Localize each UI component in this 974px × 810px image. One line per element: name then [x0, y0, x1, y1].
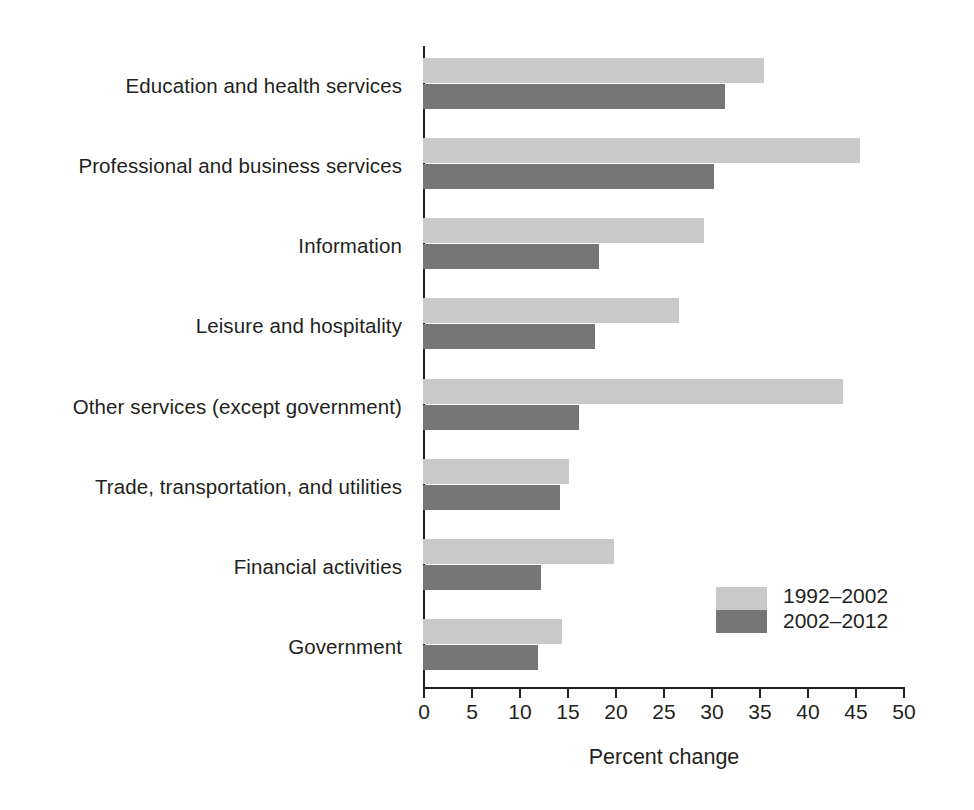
x-tick-label: 20 [604, 700, 627, 724]
category-label: Information [298, 234, 402, 258]
x-tick-label: 50 [892, 700, 915, 724]
bar-series-b [423, 84, 725, 109]
x-tick-label: 10 [508, 700, 531, 724]
x-tick [711, 687, 713, 698]
bar-series-a [423, 58, 764, 83]
x-tick-label: 30 [700, 700, 723, 724]
category-label: Financial activities [234, 555, 402, 579]
category-row: Education and health services [423, 46, 903, 126]
x-tick [567, 687, 569, 698]
bar-series-b [423, 405, 579, 430]
legend-label: 2002–2012 [783, 608, 888, 633]
x-tick [615, 687, 617, 698]
x-tick [855, 687, 857, 698]
x-tick [759, 687, 761, 698]
legend-swatches [716, 587, 767, 633]
percent-change-bar-chart: Education and health servicesProfessiona… [0, 0, 974, 810]
bar-series-a [423, 298, 679, 323]
category-row: Leisure and hospitality [423, 286, 903, 366]
category-label: Government [288, 635, 402, 659]
legend-labels: 1992–20022002–2012 [783, 583, 888, 633]
bar-series-a [423, 138, 860, 163]
category-label: Education and health services [126, 74, 402, 98]
bar-series-a [423, 459, 569, 484]
category-row: Trade, transportation, and utilities [423, 447, 903, 527]
x-tick [663, 687, 665, 698]
bar-series-b [423, 645, 538, 670]
category-label: Other services (except government) [73, 395, 402, 419]
bar-series-b [423, 164, 714, 189]
x-tick-label: 40 [796, 700, 819, 724]
x-tick-label: 25 [652, 700, 675, 724]
bar-series-a [423, 619, 562, 644]
x-tick-label: 15 [556, 700, 579, 724]
category-label: Leisure and hospitality [196, 314, 402, 338]
x-tick [807, 687, 809, 698]
x-axis-title: Percent change [423, 745, 905, 770]
legend-swatch-series-b [716, 610, 767, 633]
category-label: Professional and business services [78, 154, 402, 178]
bar-series-b [423, 324, 595, 349]
category-row: Other services (except government) [423, 367, 903, 447]
bar-series-a [423, 539, 614, 564]
bar-series-b [423, 485, 560, 510]
x-tick-label: 45 [844, 700, 867, 724]
x-tick [423, 687, 425, 698]
x-tick-label: 5 [466, 700, 478, 724]
bar-series-b [423, 244, 599, 269]
bar-series-a [423, 379, 843, 404]
category-row: Information [423, 206, 903, 286]
category-row: Professional and business services [423, 126, 903, 206]
category-label: Trade, transportation, and utilities [95, 475, 402, 499]
bar-series-a [423, 218, 704, 243]
x-tick [471, 687, 473, 698]
legend: 1992–20022002–2012 [716, 583, 888, 633]
x-tick-label: 0 [418, 700, 430, 724]
bar-series-b [423, 565, 541, 590]
x-tick-label: 35 [748, 700, 771, 724]
legend-label: 1992–2002 [783, 583, 888, 608]
legend-swatch-series-a [716, 587, 767, 610]
x-tick [519, 687, 521, 698]
x-tick [903, 687, 905, 698]
